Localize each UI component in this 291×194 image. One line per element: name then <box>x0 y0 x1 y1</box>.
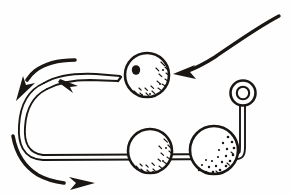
hook-eye-ring-inner <box>237 87 249 99</box>
hook-point-barb <box>44 74 121 93</box>
arrow-upper-left-shaft <box>27 60 75 80</box>
bead-right-outline <box>190 126 238 174</box>
bead-right-on-shank <box>190 126 238 174</box>
hook-point-tip <box>118 77 121 81</box>
diagram-canvas: Fishing hook and bead rig assembly Black… <box>0 0 291 194</box>
hook-point-lower-edge <box>47 80 118 89</box>
bead-left-outline <box>128 129 172 173</box>
fishing-hook-rig-illustration: Fishing hook and bead rig assembly Black… <box>0 0 291 194</box>
bead-top <box>125 53 169 97</box>
arrow-incoming-bead-shaft <box>185 16 279 72</box>
arrow-lower-left <box>13 136 95 190</box>
arrow-incoming-bead <box>173 16 279 79</box>
hook-point-upper-edge <box>44 74 120 83</box>
hook-bend <box>19 83 47 160</box>
hook-bend-inner-edge <box>25 89 47 155</box>
bead-top-spot <box>132 65 140 75</box>
arrow-lower-left-head <box>69 177 95 190</box>
bead-left-on-shank <box>128 129 172 173</box>
arrow-upper-left <box>16 60 75 101</box>
arrow-incoming-bead-head <box>173 65 196 79</box>
